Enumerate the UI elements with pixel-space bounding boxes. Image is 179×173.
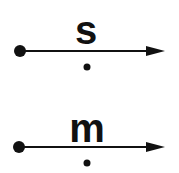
arrowhead-icon bbox=[146, 142, 165, 152]
diagram-s: s bbox=[14, 8, 165, 71]
vector-label: s bbox=[75, 8, 97, 52]
arrowhead-icon bbox=[146, 46, 165, 56]
point-icon bbox=[84, 64, 91, 71]
diagram-m: m bbox=[13, 106, 165, 167]
vector-label: m bbox=[69, 106, 105, 150]
point-icon bbox=[84, 160, 91, 167]
vector-diagrams: s m bbox=[0, 0, 179, 173]
